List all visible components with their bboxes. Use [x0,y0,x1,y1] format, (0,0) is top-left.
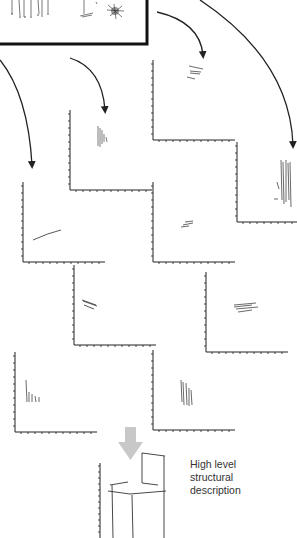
label-line-3: description [190,484,290,497]
plot-center [151,182,235,264]
plot-right-low [204,272,288,354]
plot-mid-left-high [68,110,152,192]
grey-down-arrow-icon [118,427,143,460]
plot-bottom-center [151,350,235,432]
structural-description-label: High level structural description [190,458,290,497]
plot-bottom-left [13,352,97,434]
plot-top-right-mid [151,60,235,142]
source-sketch-box [0,0,147,44]
plot-left [21,182,105,264]
plot-far-right [235,142,297,224]
result-chair [98,453,166,538]
label-line-2: structural [190,471,290,484]
plot-center-left-low [72,265,156,347]
label-line-1: High level [190,458,290,471]
